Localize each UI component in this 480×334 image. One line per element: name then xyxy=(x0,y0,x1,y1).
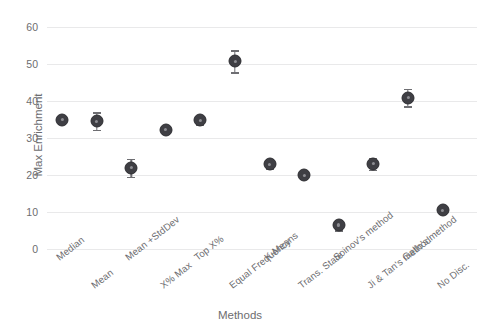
plot-area xyxy=(47,20,477,249)
data-point-marker xyxy=(194,114,207,127)
data-point-marker xyxy=(229,55,242,68)
data-point xyxy=(194,20,206,249)
data-point xyxy=(125,20,137,249)
error-bar-cap xyxy=(231,50,239,51)
error-bar-cap xyxy=(93,112,101,113)
x-axis-title: Methods xyxy=(0,309,480,321)
y-axis-tick-label: 60 xyxy=(0,22,38,33)
x-axis-tick-label: No Disc. xyxy=(435,259,471,291)
error-bar-cap xyxy=(127,159,135,160)
y-axis-tick-label: 50 xyxy=(0,59,38,70)
data-point xyxy=(160,20,172,249)
y-axis-tick-label: 10 xyxy=(0,207,38,218)
data-point-marker xyxy=(402,91,415,104)
error-bar-cap xyxy=(127,177,135,178)
error-bar-cap xyxy=(404,89,412,90)
x-axis-tick-label: Mean xyxy=(89,267,115,291)
error-bar-cap xyxy=(404,106,412,107)
y-axis-tick-label: 0 xyxy=(0,244,38,255)
x-axis-tick-label: X% Max xyxy=(158,259,194,290)
data-point-marker xyxy=(263,158,276,171)
y-axis-tick-label: 30 xyxy=(0,133,38,144)
data-point-marker xyxy=(159,123,172,136)
data-point xyxy=(229,20,241,249)
y-axis-tick-label: 20 xyxy=(0,170,38,181)
data-point-marker xyxy=(125,161,138,174)
y-axis-tick-label: 40 xyxy=(0,96,38,107)
data-point-marker xyxy=(436,204,449,217)
data-point xyxy=(333,20,345,249)
data-point xyxy=(264,20,276,249)
error-bar-cap xyxy=(231,72,239,73)
data-point-marker xyxy=(332,218,345,231)
data-point xyxy=(437,20,449,249)
data-point-marker xyxy=(90,115,103,128)
data-point-marker xyxy=(367,157,380,170)
data-point-marker xyxy=(56,113,69,126)
data-points-layer xyxy=(47,20,477,249)
data-point xyxy=(298,20,310,249)
error-bar-cap xyxy=(93,130,101,131)
data-point xyxy=(56,20,68,249)
data-point-marker xyxy=(298,169,311,182)
data-point xyxy=(402,20,414,249)
chart-root: Max Enrichment 0102030405060 MedianMeanM… xyxy=(0,0,480,334)
data-point xyxy=(91,20,103,249)
data-point xyxy=(367,20,379,249)
